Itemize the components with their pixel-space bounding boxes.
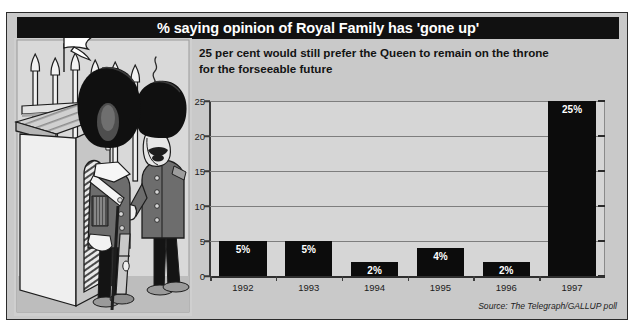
subtitle-line-1: 25 per cent would still prefer the Queen…: [199, 45, 619, 61]
x-axis-tick-label: 1994: [364, 282, 385, 293]
bar-value-label: 25%: [548, 104, 595, 115]
x-axis-tick-label: 1993: [298, 282, 319, 293]
bar-1993[interactable]: 5%: [285, 241, 332, 276]
right-axis-tick-mark: [598, 135, 605, 137]
right-axis-tick-mark: [598, 100, 605, 102]
y-axis-tick-label: 15: [187, 166, 205, 177]
right-axis-tick-mark: [598, 170, 605, 172]
infographic-figure: % saying opinion of Royal Family has 'go…: [6, 12, 628, 320]
bar-value-label: 5%: [285, 244, 332, 255]
y-axis-tick-mark: [204, 135, 210, 137]
subtitle-line-2: for the forseeable future: [199, 61, 619, 77]
x-axis-tick-label: 1996: [496, 282, 517, 293]
y-axis-tick-label: 20: [187, 131, 205, 142]
bar-1997[interactable]: 25%: [548, 101, 595, 276]
x-axis-tick-mark: [408, 276, 410, 281]
y-axis-tick-label: 5: [187, 236, 205, 247]
y-axis-line: [209, 101, 211, 276]
y-axis-tick-label: 25: [187, 96, 205, 107]
x-axis-tick-mark: [473, 276, 475, 281]
bar-1994[interactable]: 2%: [351, 262, 398, 276]
bar-1996[interactable]: 2%: [483, 262, 530, 276]
source-note: Source: The Telegraph/GALLUP poll: [478, 301, 617, 311]
gridline: [210, 101, 605, 102]
x-axis-tick-mark: [276, 276, 278, 281]
gridline: [210, 241, 605, 242]
x-axis: 199219931994199519961997: [199, 276, 605, 298]
right-axis-line: [604, 101, 606, 276]
x-axis-tick-mark: [342, 276, 344, 281]
y-axis-tick-mark: [204, 205, 210, 207]
x-axis-tick-label: 1995: [430, 282, 451, 293]
y-axis-tick-mark: [204, 240, 210, 242]
bar-1992[interactable]: 5%: [219, 241, 266, 276]
x-axis-tick-label: 1992: [232, 282, 253, 293]
bar-chart: 0510152025 5%5%2%4%2%25%: [199, 101, 605, 276]
right-axis-tick-mark: [598, 205, 605, 207]
x-axis-tick-mark: [539, 276, 541, 281]
x-axis-tick-mark: [210, 276, 212, 281]
bar-1995[interactable]: 4%: [417, 248, 464, 276]
chart-subtitle: 25 per cent would still prefer the Queen…: [199, 45, 619, 76]
page-title: % saying opinion of Royal Family has 'go…: [17, 17, 619, 39]
clipped-overflow-text: [8, 0, 308, 8]
y-axis-tick-label: 10: [187, 201, 205, 212]
bar-value-label: 5%: [219, 244, 266, 255]
bar-value-label: 4%: [417, 251, 464, 262]
x-axis-tick-label: 1997: [562, 282, 583, 293]
gridline: [210, 136, 605, 137]
bar-value-label: 2%: [351, 265, 398, 276]
plot-area: [210, 101, 605, 276]
chart-title-banner: % saying opinion of Royal Family has 'go…: [17, 17, 619, 39]
y-axis-tick-mark: [204, 100, 210, 102]
right-axis-tick-mark: [598, 240, 605, 242]
bar-value-label: 2%: [483, 265, 530, 276]
y-axis-tick-mark: [204, 170, 210, 172]
gridline: [210, 171, 605, 172]
royal-guards-illustration: [14, 38, 192, 316]
gridline: [210, 206, 605, 207]
